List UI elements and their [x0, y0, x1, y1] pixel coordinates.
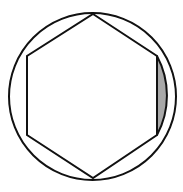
geometry-figure: Regular hexagon inscribed in a circle wi… — [0, 0, 183, 192]
